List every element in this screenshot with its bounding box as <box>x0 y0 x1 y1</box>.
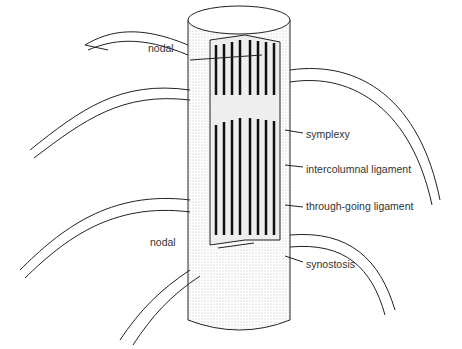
label-nodal-bottom: nodal <box>150 236 176 248</box>
label-nodal-top: nodal <box>148 42 174 54</box>
label-symplexy: symplexy <box>306 128 350 140</box>
label-intercolumnal-ligament: intercolumnal ligament <box>306 163 411 175</box>
crinoid-stem-diagram: nodal symplexy intercolumnal ligament th… <box>0 0 462 349</box>
label-through-going-ligament: through-going ligament <box>306 200 413 212</box>
label-synostosis: synostosis <box>306 258 355 270</box>
cirrus-right-bottom <box>290 234 395 315</box>
cirrus-left-mid <box>30 88 190 158</box>
